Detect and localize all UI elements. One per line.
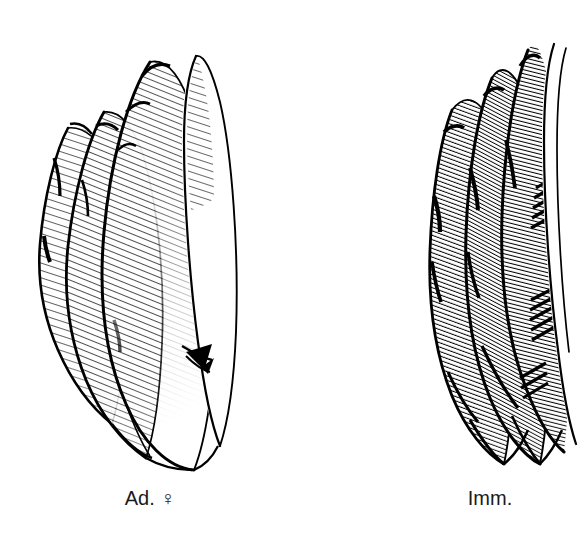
caption-adult-female: Ad. ♀ bbox=[60, 487, 240, 510]
figure-page: A bbox=[0, 0, 579, 538]
feather-illustration bbox=[0, 0, 579, 538]
caption-immature: Imm. bbox=[410, 487, 570, 510]
